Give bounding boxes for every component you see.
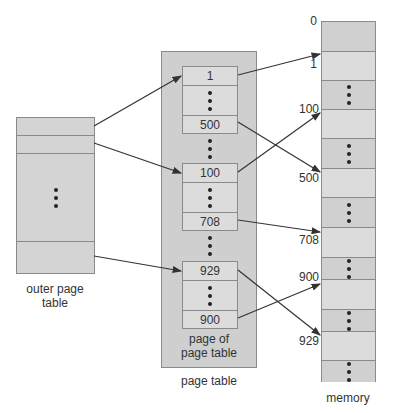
arrow-outer-to-page3 — [94, 256, 181, 271]
arrow-929-to-memory — [238, 270, 320, 335]
arrow-100-to-memory — [238, 113, 320, 172]
arrow-500-to-memory — [238, 122, 320, 172]
arrow-1-to-memory — [238, 54, 320, 75]
arrow-900-to-memory — [238, 284, 320, 318]
arrow-708-to-memory — [238, 220, 320, 232]
arrow-outer-to-page1 — [94, 76, 181, 126]
arrow-outer-to-page2 — [94, 143, 181, 173]
mapping-arrows — [0, 0, 394, 413]
